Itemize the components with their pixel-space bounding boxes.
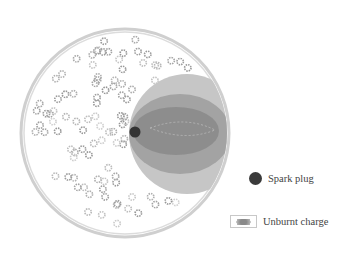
- legend-label: Unburnt charge: [263, 216, 328, 227]
- inner-flame-zone: [133, 107, 219, 155]
- spark-plug-swatch-icon: [249, 172, 262, 185]
- legend-unburnt-charge: Unburnt charge: [230, 215, 328, 228]
- legend-label: Spark plug: [268, 173, 314, 184]
- spark-plug-icon: [130, 127, 141, 138]
- legend-spark-plug: Spark plug: [249, 172, 314, 185]
- unburnt-charge-swatch-icon: [230, 215, 257, 228]
